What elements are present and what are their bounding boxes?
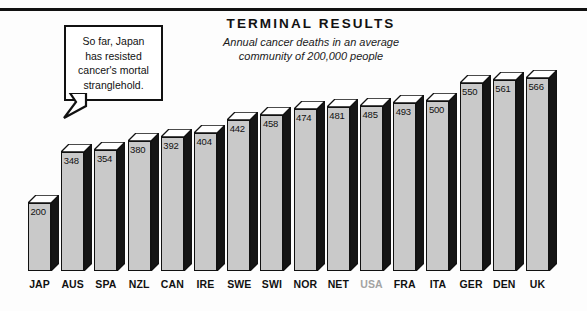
bar-group-fra[interactable]: 493 [393, 95, 424, 271]
bar-value-label: 442 [230, 123, 245, 134]
bar-category-label-jap: JAP [28, 278, 51, 290]
bar-group-swi[interactable]: 458 [260, 107, 291, 271]
bar-value-label: 380 [130, 144, 145, 155]
bar-value-label: 392 [163, 140, 178, 151]
bar-front-face [460, 83, 483, 271]
bar-category-label-uk: UK [526, 278, 549, 290]
bar-category-label-fra: FRA [393, 278, 416, 290]
bar-category-label-ita: ITA [426, 278, 449, 290]
bar-group-swe[interactable]: 442 [227, 112, 258, 271]
chart-figure: TERMINAL RESULTS Annual cancer deaths in… [0, 0, 587, 311]
bar-front-face [360, 106, 383, 271]
bar-value-label: 458 [263, 118, 278, 129]
bar-front-face [526, 78, 549, 271]
bar-front-face [161, 137, 184, 271]
bar-value-label: 500 [429, 104, 444, 115]
bar-category-label-spa: SPA [94, 278, 117, 290]
bar-value-label: 404 [197, 136, 212, 147]
bar-value-label: 354 [97, 153, 112, 164]
bar-category-label-net: NET [327, 278, 350, 290]
bar-category-label-usa: USA [360, 278, 383, 290]
bar-group-usa[interactable]: 485 [360, 98, 391, 271]
bar-category-label-swe: SWE [227, 278, 250, 290]
bar-group-can[interactable]: 392 [161, 129, 192, 271]
bar-value-label: 566 [529, 81, 544, 92]
bar-front-face [260, 115, 283, 271]
bar-category-label-nor: NOR [294, 278, 317, 290]
bar-group-nor[interactable]: 474 [294, 101, 325, 271]
bar-category-label-can: CAN [161, 278, 184, 290]
bar-front-face [493, 80, 516, 271]
bar-plot-area: 200JAP348AUS354SPA380NZL392CAN404IRE442S… [0, 0, 587, 311]
bar-category-label-swi: SWI [260, 278, 283, 290]
bar-front-face [426, 101, 449, 271]
bar-value-label: 481 [329, 110, 344, 121]
bar-group-ita[interactable]: 500 [426, 93, 457, 271]
bar-group-jap[interactable]: 200 [28, 195, 59, 271]
bar-front-face [294, 109, 317, 271]
bar-category-label-aus: AUS [61, 278, 84, 290]
bar-group-uk[interactable]: 566 [526, 70, 557, 271]
bar-value-label: 485 [363, 109, 378, 120]
bar-group-den[interactable]: 561 [493, 72, 524, 271]
bar-front-face [194, 133, 217, 271]
bar-front-face [128, 141, 151, 271]
bar-category-label-ire: IRE [194, 278, 217, 290]
bar-value-label: 200 [31, 206, 46, 217]
bar-group-aus[interactable]: 348 [61, 144, 92, 271]
bar-value-label: 493 [396, 106, 411, 117]
bar-front-face [61, 152, 84, 271]
bar-group-ger[interactable]: 550 [460, 75, 491, 271]
bar-group-nzl[interactable]: 380 [128, 133, 159, 271]
bar-category-label-den: DEN [493, 278, 516, 290]
bar-front-face [393, 103, 416, 271]
bar-value-label: 474 [296, 112, 311, 123]
bar-category-label-nzl: NZL [128, 278, 151, 290]
bar-group-spa[interactable]: 354 [94, 142, 125, 271]
bar-value-label: 561 [495, 83, 510, 94]
bar-front-face [94, 150, 117, 271]
bar-value-label: 550 [462, 86, 477, 97]
bar-category-label-ger: GER [460, 278, 483, 290]
bar-value-label: 348 [64, 155, 79, 166]
bar-front-face [327, 107, 350, 271]
bar-front-face [227, 120, 250, 271]
bar-group-net[interactable]: 481 [327, 99, 358, 271]
bar-group-ire[interactable]: 404 [194, 125, 225, 271]
